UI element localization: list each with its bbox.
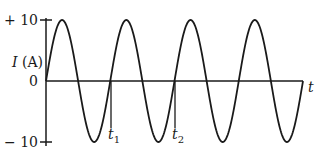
y-tick-label-top: + 10 — [4, 12, 38, 28]
t1-label: t1 — [108, 126, 120, 145]
y-tick-label-zero: 0 — [29, 73, 38, 89]
x-axis-label: t — [308, 79, 314, 95]
current-vs-time-chart: + 10 0 − 10 I (A) t t1 t2 — [0, 0, 321, 157]
y-axis-label: I (A) — [11, 54, 43, 70]
y-tick-label-bottom: − 10 — [4, 134, 38, 150]
t2-label: t2 — [172, 126, 184, 145]
